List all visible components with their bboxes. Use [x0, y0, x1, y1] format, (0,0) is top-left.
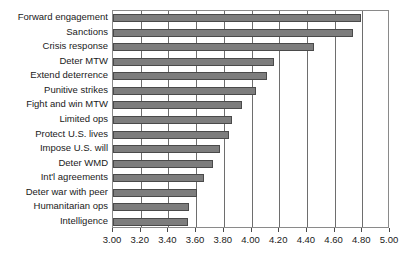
category-label: Deter MTW: [59, 54, 108, 68]
x-tick-mark: [251, 228, 252, 232]
bar: [113, 174, 204, 182]
category-label: Crisis response: [43, 39, 108, 53]
x-tick-mark: [334, 228, 335, 232]
category-label: Fight and win MTW: [26, 97, 108, 111]
bar: [113, 131, 229, 139]
x-tick-label: 5.00: [372, 234, 406, 245]
bar: [113, 58, 274, 66]
category-label: Extend deterrence: [30, 68, 108, 82]
bar: [113, 87, 256, 95]
x-tick-mark: [140, 228, 141, 232]
x-tick-mark: [389, 228, 390, 232]
bars-layer: [113, 11, 388, 227]
bar: [113, 189, 197, 197]
category-label: Sanctions: [66, 25, 108, 39]
category-label: Limited ops: [59, 112, 108, 126]
category-label: Impose U.S. will: [40, 141, 108, 155]
x-tick-mark: [306, 228, 307, 232]
bar: [113, 29, 353, 37]
category-label: Protect U.S. lives: [35, 127, 108, 141]
category-label: Deter war with peer: [26, 185, 108, 199]
x-tick-mark: [223, 228, 224, 232]
category-label: Deter WMD: [58, 156, 108, 170]
category-axis: Forward engagementSanctionsCrisis respon…: [0, 10, 112, 228]
x-tick-mark: [112, 228, 113, 232]
bar: [113, 14, 361, 22]
bar: [113, 145, 220, 153]
category-label: Humanitarian ops: [34, 199, 108, 213]
x-tick-mark: [167, 228, 168, 232]
bar: [113, 218, 188, 226]
category-label: Intelligence: [60, 214, 108, 228]
category-label: Int'l agreements: [41, 170, 108, 184]
x-tick-mark: [278, 228, 279, 232]
bar: [113, 160, 213, 168]
bar: [113, 43, 314, 51]
bar: [113, 101, 242, 109]
category-label: Punitive strikes: [44, 83, 108, 97]
category-label: Forward engagement: [18, 10, 108, 24]
bar: [113, 203, 189, 211]
bar: [113, 116, 232, 124]
plot-area: [112, 10, 389, 228]
value-axis: 3.003.203.403.603.804.004.204.404.604.80…: [112, 228, 389, 258]
x-tick-mark: [195, 228, 196, 232]
bar: [113, 72, 267, 80]
bar-chart: Forward engagementSanctionsCrisis respon…: [0, 0, 416, 258]
x-tick-mark: [361, 228, 362, 232]
